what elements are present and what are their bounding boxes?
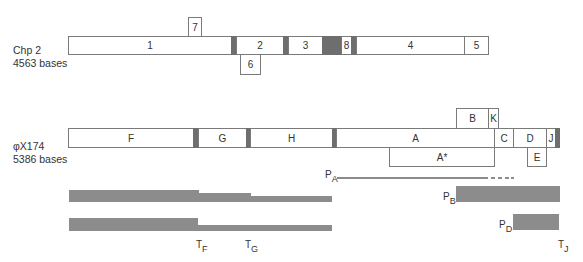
- phix174-gene-A-star: A*: [389, 147, 495, 167]
- transcript-PA-line: [337, 177, 488, 179]
- promoter-PD-label: PD: [499, 220, 512, 234]
- gene-label: 2: [257, 40, 263, 51]
- gene-label: B: [469, 113, 476, 124]
- phix174-gene-G: G: [198, 128, 247, 148]
- gene-label: J: [549, 133, 554, 144]
- gene-label: 5: [474, 40, 480, 51]
- phix174-gene-D: D: [513, 128, 547, 148]
- gene-label: 4: [408, 40, 414, 51]
- terminator-TG-label: TG: [245, 240, 258, 254]
- gene-label: 6: [248, 59, 254, 70]
- chp2-gene-3: 3: [288, 36, 323, 55]
- gene-label: E: [534, 152, 541, 163]
- phix174-gene-C: C: [494, 128, 514, 148]
- chp2-gene-7: 7: [188, 17, 202, 37]
- chp2-gene-4: 4: [356, 36, 465, 55]
- phix174-gene-K: K: [488, 108, 499, 129]
- phix174-name-label: φX174: [13, 140, 44, 152]
- phix174-gene-F: F: [68, 128, 194, 148]
- phix174-intergenic-band: [555, 128, 560, 148]
- gene-label: 8: [344, 40, 350, 51]
- transcript-PB-block: [456, 186, 560, 202]
- transcript-row1-thin: [251, 196, 332, 202]
- gene-label: G: [219, 133, 227, 144]
- transcript-row1-thick: [69, 190, 199, 202]
- transcript-PA-dash: [511, 177, 514, 179]
- terminator-TF-label: TF: [196, 240, 208, 254]
- promoter-PA-label: PA: [325, 170, 338, 184]
- gene-label: H: [288, 133, 295, 144]
- chp2-gene-1: 1: [68, 36, 232, 55]
- chp2-name-label: Chp 2: [13, 44, 41, 56]
- phix174-gene-A: A: [336, 128, 495, 148]
- phix174-gene-B: B: [456, 108, 489, 129]
- gene-label: C: [500, 133, 507, 144]
- gene-label: K: [490, 113, 497, 124]
- phix174-gene-E: E: [527, 147, 547, 167]
- transcript-PD-block: [513, 214, 559, 230]
- gene-label: A*: [437, 152, 448, 163]
- chp2-intergenic-block: [322, 36, 342, 55]
- phix174-size-label: 5386 bases: [13, 153, 67, 165]
- chp2-gene-2: 2: [236, 36, 284, 55]
- gene-label: 3: [303, 40, 309, 51]
- promoter-PB-label: PB: [443, 192, 456, 206]
- chp2-gene-5: 5: [464, 36, 489, 55]
- gene-label: 7: [192, 22, 198, 33]
- chp2-gene-6: 6: [240, 54, 261, 75]
- phix174-gene-H: H: [250, 128, 333, 148]
- gene-label: D: [526, 133, 533, 144]
- gene-label: F: [128, 133, 134, 144]
- gene-label: 1: [147, 40, 153, 51]
- transcript-PA-dash: [491, 177, 495, 179]
- transcript-PA-dash: [498, 177, 502, 179]
- transcript-PA-dash: [505, 177, 509, 179]
- transcript-row1-medium: [199, 193, 251, 202]
- gene-label: A: [412, 133, 419, 144]
- transcript-row2-thick: [69, 218, 198, 231]
- terminator-TJ-label: TJ: [558, 240, 569, 254]
- transcript-row2-thin: [198, 225, 332, 231]
- chp2-size-label: 4563 bases: [13, 57, 67, 69]
